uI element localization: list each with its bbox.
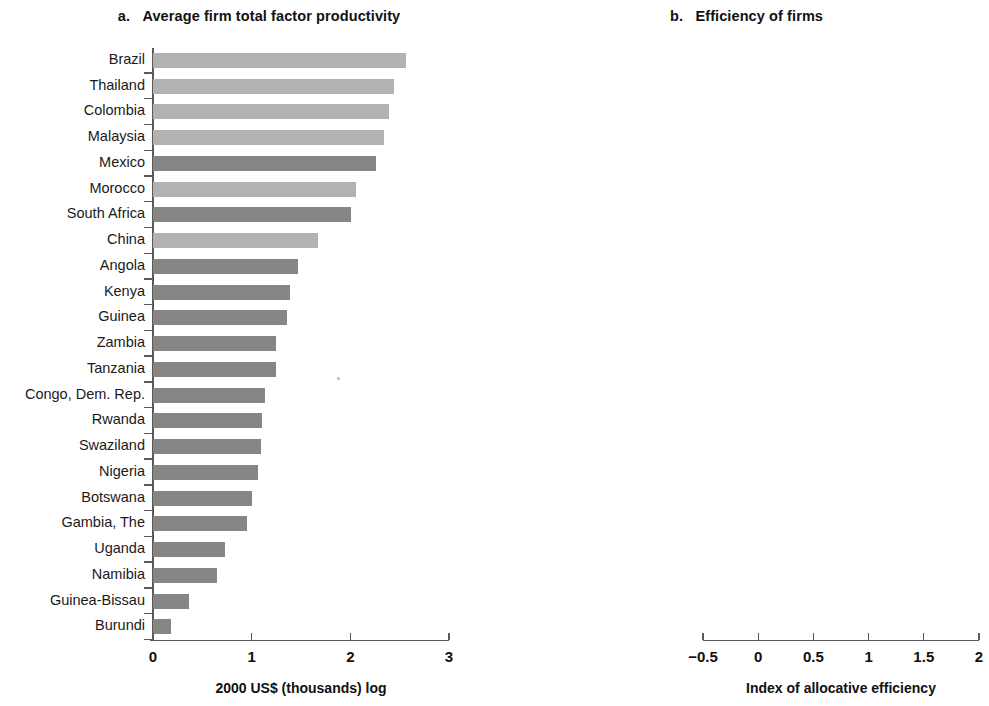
y-axis-tick bbox=[144, 304, 152, 305]
x-axis-tick-label: 0.5 bbox=[803, 648, 824, 665]
bar-row: Uganda bbox=[153, 537, 449, 563]
y-axis-tick bbox=[144, 253, 152, 254]
y-axis-tick bbox=[144, 536, 152, 537]
x-axis-tick bbox=[868, 633, 869, 640]
y-axis-label-colombia: Colombia bbox=[84, 103, 145, 118]
x-axis-tick bbox=[448, 633, 449, 640]
x-axis-tick bbox=[813, 633, 814, 640]
bar-gambia-the bbox=[153, 516, 247, 531]
bar-row: Guinea-Bissau bbox=[153, 589, 449, 615]
y-axis-label-rwanda: Rwanda bbox=[92, 412, 145, 427]
x-axis-tick bbox=[978, 633, 979, 640]
panel-a-title-text: Average firm total factor productivity bbox=[142, 8, 400, 24]
x-axis-tick bbox=[350, 633, 351, 640]
y-axis-label-south-africa: South Africa bbox=[67, 206, 145, 221]
y-axis-label-gambia-the: Gambia, The bbox=[61, 515, 145, 530]
bar-south-africa bbox=[153, 207, 351, 222]
bar-row: Mexico bbox=[153, 151, 449, 177]
bar-row: Nigeria bbox=[153, 460, 449, 486]
x-axis-tick-label: 0 bbox=[754, 648, 762, 665]
x-axis-tick bbox=[758, 633, 759, 640]
y-axis-label-brazil: Brazil bbox=[109, 52, 145, 67]
bar-row: Kenya bbox=[153, 280, 449, 306]
y-axis-tick bbox=[144, 201, 152, 202]
bar-malaysia bbox=[153, 130, 384, 145]
y-axis-label-tanzania: Tanzania bbox=[87, 361, 145, 376]
y-axis-label-burundi: Burundi bbox=[95, 618, 145, 633]
bar-row: China bbox=[153, 228, 449, 254]
bar-angola bbox=[153, 259, 298, 274]
x-axis-tick-label: 2 bbox=[975, 648, 983, 665]
y-axis-tick bbox=[144, 561, 152, 562]
figure-container: a. Average firm total factor productivit… bbox=[0, 0, 989, 706]
y-axis-label-guinea: Guinea bbox=[98, 309, 145, 324]
x-axis-line bbox=[703, 640, 979, 641]
x-axis-tick-label: 1.5 bbox=[913, 648, 934, 665]
bar-row: Botswana bbox=[153, 486, 449, 512]
bar-row: Guinea bbox=[153, 305, 449, 331]
panel-b: b. Efficiency of firms ChinaMalaysiaBraz… bbox=[500, 0, 989, 706]
x-axis-tick-label: −0.5 bbox=[688, 648, 718, 665]
panel-a-letter: a. bbox=[118, 8, 130, 24]
y-axis-label-angola: Angola bbox=[100, 258, 145, 273]
bar-brazil bbox=[153, 53, 406, 68]
bar-burundi bbox=[153, 619, 171, 634]
bar-row: Zambia bbox=[153, 331, 449, 357]
y-axis-label-morocco: Morocco bbox=[89, 181, 145, 196]
page-speck bbox=[337, 377, 340, 380]
bar-row: Namibia bbox=[153, 563, 449, 589]
x-axis-tick bbox=[702, 633, 703, 640]
bar-row: Thailand bbox=[153, 74, 449, 100]
bar-row: South Africa bbox=[153, 202, 449, 228]
x-axis-tick-label: 1 bbox=[864, 648, 872, 665]
y-axis-tick bbox=[144, 433, 152, 434]
y-axis-tick bbox=[144, 355, 152, 356]
bar-row: Swaziland bbox=[153, 434, 449, 460]
y-axis-tick bbox=[144, 227, 152, 228]
x-axis-tick-label: 2 bbox=[346, 648, 354, 665]
x-axis-tick-label: 0 bbox=[149, 648, 157, 665]
y-axis-tick bbox=[144, 613, 152, 614]
panel-b-title-text: Efficiency of firms bbox=[695, 8, 823, 24]
y-axis-label-kenya: Kenya bbox=[104, 284, 145, 299]
bar-colombia bbox=[153, 104, 389, 119]
panel-a-plot-area: BrazilThailandColombiaMalaysiaMexicoMoro… bbox=[153, 48, 449, 640]
bar-thailand bbox=[153, 79, 394, 94]
y-axis-label-mexico: Mexico bbox=[99, 155, 145, 170]
y-axis-label-namibia: Namibia bbox=[92, 567, 145, 582]
y-axis-tick bbox=[144, 484, 152, 485]
panel-a-bar-rows: BrazilThailandColombiaMalaysiaMexicoMoro… bbox=[153, 48, 449, 640]
panel-a: a. Average firm total factor productivit… bbox=[0, 0, 500, 706]
bar-row: Gambia, The bbox=[153, 511, 449, 537]
y-axis-label-swaziland: Swaziland bbox=[79, 438, 145, 453]
bar-guinea-bissau bbox=[153, 594, 189, 609]
bar-row: Burundi bbox=[153, 614, 449, 640]
bar-row: Colombia bbox=[153, 99, 449, 125]
y-axis-label-congo-dem-rep: Congo, Dem. Rep. bbox=[25, 387, 145, 402]
y-axis-tick bbox=[144, 278, 152, 279]
bar-rwanda bbox=[153, 413, 262, 428]
bar-row: Brazil bbox=[153, 48, 449, 74]
x-axis-tick bbox=[251, 633, 252, 640]
y-axis-label-zambia: Zambia bbox=[97, 335, 145, 350]
bar-mexico bbox=[153, 156, 376, 171]
y-axis-tick bbox=[144, 407, 152, 408]
bar-uganda bbox=[153, 542, 225, 557]
bar-botswana bbox=[153, 491, 252, 506]
bar-morocco bbox=[153, 182, 356, 197]
y-axis-tick bbox=[144, 510, 152, 511]
bar-kenya bbox=[153, 285, 290, 300]
y-axis-tick bbox=[144, 381, 152, 382]
bar-namibia bbox=[153, 568, 217, 583]
bar-row: Morocco bbox=[153, 177, 449, 203]
bar-row: Congo, Dem. Rep. bbox=[153, 383, 449, 409]
bar-zambia bbox=[153, 336, 276, 351]
y-axis-label-malaysia: Malaysia bbox=[88, 129, 145, 144]
x-axis-caption: Index of allocative efficiency bbox=[746, 680, 936, 696]
bar-nigeria bbox=[153, 465, 258, 480]
bar-row: Angola bbox=[153, 254, 449, 280]
x-axis-tick bbox=[923, 633, 924, 640]
panel-a-title: a. Average firm total factor productivit… bbox=[0, 8, 500, 24]
y-axis-tick bbox=[144, 175, 152, 176]
x-axis-line bbox=[150, 640, 449, 641]
